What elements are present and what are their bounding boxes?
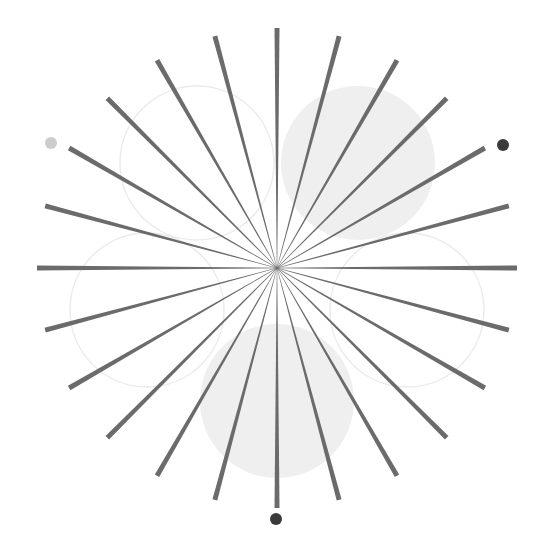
bottom-dot <box>270 513 282 525</box>
spoke-255deg <box>212 36 277 269</box>
circle-left <box>70 233 224 387</box>
spoke-165deg <box>45 268 278 333</box>
spoke-0deg <box>277 266 517 271</box>
spokes-layer <box>37 28 517 508</box>
spoke-195deg <box>45 203 278 268</box>
circle-right <box>330 233 484 387</box>
spoke-15deg <box>277 268 510 333</box>
spoke-180deg <box>37 266 277 271</box>
upper-left-dot <box>45 137 57 149</box>
spoke-270deg <box>275 28 280 268</box>
starburst-diagram <box>0 0 552 546</box>
upper-right-dot <box>497 139 509 151</box>
circle-top-left <box>120 86 274 240</box>
diagram-canvas <box>0 0 552 546</box>
